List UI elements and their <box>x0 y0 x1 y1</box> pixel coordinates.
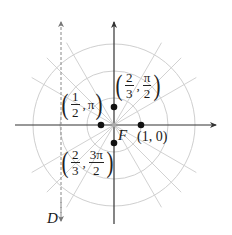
fraction-denominator: 3 <box>72 163 79 177</box>
close-paren: ) <box>154 70 161 100</box>
fraction-r: 1 2 <box>71 90 80 119</box>
fraction-denominator: 2 <box>93 163 100 177</box>
fraction-denominator: 2 <box>72 105 79 119</box>
comma: , <box>137 79 140 92</box>
fraction-numerator: 3π <box>89 148 104 163</box>
close-paren: ) <box>106 147 113 177</box>
fraction-denominator: 2 <box>144 86 151 100</box>
directrix-label: D <box>47 211 58 226</box>
open-paren: ( <box>62 89 69 119</box>
fraction-r: 2 3 <box>125 71 134 100</box>
comma: , <box>83 156 86 169</box>
point-label-two-thirds-half-pi: ( 2 3 , π 2 ) <box>114 70 162 100</box>
fraction-r: 2 3 <box>71 148 80 177</box>
open-paren: ( <box>62 147 69 177</box>
point-label-half-pi: ( 1 2 , π ) <box>60 89 104 119</box>
theta-value: π <box>88 98 95 111</box>
close-paren: ) <box>96 89 103 119</box>
point-half-pi <box>98 122 105 129</box>
polar-diagram <box>0 0 232 235</box>
comma: , <box>83 98 86 111</box>
point-1-0 <box>138 122 145 129</box>
point-two-thirds-half-pi <box>111 104 118 111</box>
focus-point <box>112 123 116 127</box>
fraction-numerator: 2 <box>71 148 80 163</box>
point-label-two-thirds-three-half-pi: ( 2 3 , 3π 2 ) <box>60 147 115 177</box>
point-label-1-0: (1, 0) <box>137 130 167 144</box>
fraction-theta: 3π 2 <box>89 148 104 177</box>
open-paren: ( <box>116 70 123 100</box>
fraction-numerator: π <box>143 71 152 86</box>
focus-label: F <box>118 128 127 143</box>
fraction-theta: π 2 <box>143 71 152 100</box>
fraction-denominator: 3 <box>126 86 133 100</box>
fraction-numerator: 2 <box>125 71 134 86</box>
fraction-numerator: 1 <box>71 90 80 105</box>
